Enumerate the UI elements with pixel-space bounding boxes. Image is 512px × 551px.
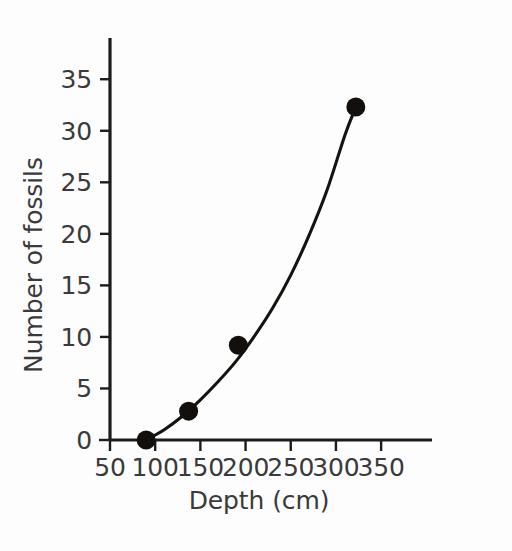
x-tick-labels-group: 50100150200250300350: [94, 453, 404, 482]
y-tick-label: 25: [61, 168, 92, 197]
x-tick-label: 150: [177, 453, 224, 482]
data-point-marker: [179, 402, 198, 421]
y-tick-label: 30: [61, 117, 92, 146]
data-points-group: [137, 98, 366, 450]
y-tick-label: 20: [61, 220, 92, 249]
y-axis-title: Number of fossils: [19, 157, 48, 373]
x-tick-label: 200: [222, 453, 269, 482]
data-point-marker: [229, 336, 248, 355]
y-tick-label: 10: [61, 323, 92, 352]
y-tick-labels-group: 05101520253035: [61, 65, 92, 455]
x-tick-label: 50: [94, 453, 125, 482]
data-point-marker: [137, 431, 156, 450]
x-tick-label: 100: [132, 453, 179, 482]
fossil-depth-chart: 50100150200250300350 05101520253035 Dept…: [0, 0, 512, 551]
fit-curve-path: [146, 107, 356, 440]
x-axis-title: Depth (cm): [189, 486, 330, 515]
y-tick-label: 5: [76, 374, 92, 403]
x-tick-label: 250: [267, 453, 314, 482]
y-tick-label: 0: [76, 426, 92, 455]
x-tick-label: 300: [312, 453, 359, 482]
y-tick-label: 35: [61, 65, 92, 94]
axes-group: [110, 38, 432, 440]
data-point-marker: [346, 98, 365, 117]
x-tick-label: 350: [358, 453, 405, 482]
chart-canvas: 50100150200250300350 05101520253035 Dept…: [0, 0, 512, 551]
y-tick-label: 15: [61, 271, 92, 300]
tick-marks-group: [99, 79, 381, 451]
fit-curve-group: [146, 107, 356, 440]
